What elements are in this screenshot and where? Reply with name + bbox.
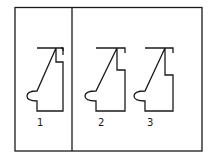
figure-3-outline — [134, 48, 173, 111]
figure-2-label: 2 — [98, 118, 104, 128]
figure-1-outline — [27, 48, 63, 111]
figure-1-label: 1 — [37, 118, 43, 128]
figure-3-label: 3 — [147, 118, 153, 128]
outer-frame — [15, 8, 202, 152]
diagram-canvas — [0, 0, 214, 165]
figure-2-outline — [85, 48, 125, 111]
